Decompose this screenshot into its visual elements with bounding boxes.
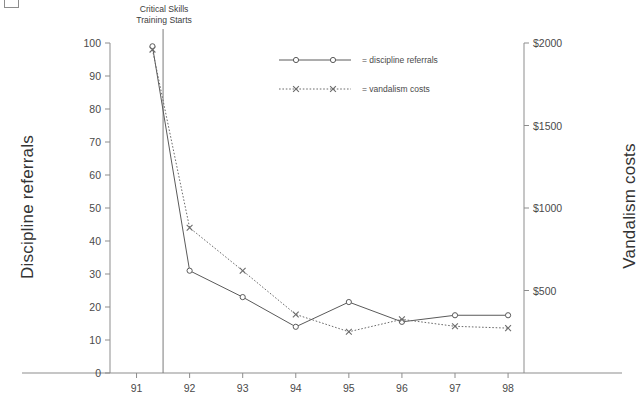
y-tick-label-left: 0 <box>95 367 101 379</box>
ticks-group: 0102030405060708090100$500$1000$1500$200… <box>83 37 562 394</box>
legend-label: = discipline referrals <box>362 55 438 65</box>
line-chart: Discipline referrals Vandalism costs 010… <box>0 0 644 411</box>
y-tick-label-left: 90 <box>89 70 101 82</box>
x-tick-label: 98 <box>502 382 514 394</box>
y-tick-label-left: 100 <box>83 37 101 49</box>
y-tick-label-right: $1000 <box>533 202 562 214</box>
x-tick-label: 93 <box>237 382 249 394</box>
y-tick-label-right: $1500 <box>533 120 562 132</box>
y-tick-label-left: 30 <box>89 268 101 280</box>
x-tick-label: 91 <box>131 382 143 394</box>
y-tick-label-left: 10 <box>89 334 101 346</box>
y-tick-label-left: 70 <box>89 136 101 148</box>
x-tick-label: 97 <box>449 382 461 394</box>
x-tick-label: 95 <box>343 382 355 394</box>
series-line <box>152 46 508 327</box>
annotation-line-1: Critical Skills <box>140 4 189 14</box>
legend-label: = vandalism costs <box>362 84 430 94</box>
series-markers <box>150 47 511 335</box>
legend-group: = discipline referrals= vandalism costs <box>279 55 438 94</box>
y-tick-label-left: 80 <box>89 103 101 115</box>
y-tick-label-right: $2000 <box>533 37 562 49</box>
y-tick-label-left: 60 <box>89 169 101 181</box>
annotation-line-2: Training Starts <box>136 15 192 25</box>
x-tick-label: 96 <box>396 382 408 394</box>
x-tick-label: 92 <box>184 382 196 394</box>
y-tick-label-left: 50 <box>89 202 101 214</box>
y-tick-label-left: 40 <box>89 235 101 247</box>
y-tick-label-right: $500 <box>533 285 557 297</box>
chart-canvas: 0102030405060708090100$500$1000$1500$200… <box>0 0 644 411</box>
y-tick-label-left: 20 <box>89 301 101 313</box>
x-tick-label: 94 <box>290 382 302 394</box>
axes-group <box>22 43 622 373</box>
annotations-group: Critical SkillsTraining Starts <box>136 4 192 373</box>
series-group <box>150 44 511 335</box>
